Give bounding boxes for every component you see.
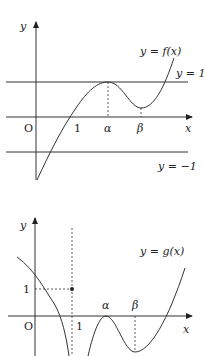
tick-label-1: 1	[74, 122, 81, 135]
x-tick-label-1: 1	[76, 320, 83, 333]
point-1-1	[70, 287, 74, 291]
x-axis-label: x	[185, 122, 192, 135]
curve-g-label: y = g(x)	[139, 245, 184, 258]
y-axis-label: y	[19, 219, 27, 232]
line-lower-label: y = −1	[157, 160, 197, 173]
line-upper-label: y = 1	[175, 67, 205, 80]
bottom-graph: y x O y = g(x) 1 1 α β	[8, 218, 192, 356]
y-axis-label: y	[19, 20, 27, 33]
top-graph: y x O y = f(x) y = 1 y = −1 1 α β	[6, 20, 205, 180]
curve-g-right-branch	[88, 268, 185, 356]
y-tick-label-1: 1	[23, 283, 30, 296]
curve-g-left-branch	[17, 257, 69, 356]
point-label-alpha: α	[102, 299, 110, 312]
origin-label: O	[24, 320, 33, 333]
tick-label-beta: β	[136, 122, 143, 135]
origin-label: O	[24, 122, 33, 135]
point-label-beta: β	[131, 299, 138, 312]
curve-f	[37, 58, 174, 180]
function-graphs-figure: y x O y = f(x) y = 1 y = −1 1 α β y x O …	[0, 0, 206, 356]
curve-f-label: y = f(x)	[139, 45, 181, 58]
x-axis-label: x	[183, 323, 190, 336]
tick-label-alpha: α	[104, 122, 112, 135]
